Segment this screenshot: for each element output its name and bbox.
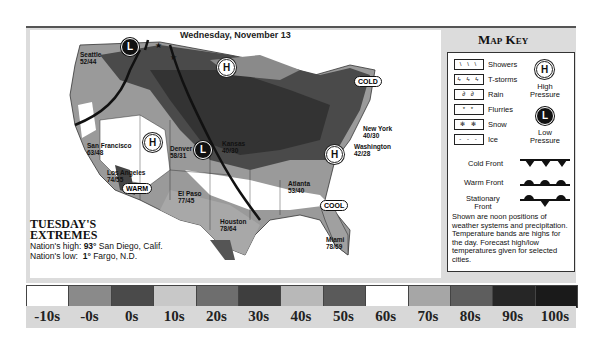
key-rain: ∂ ∂Rain (454, 89, 503, 100)
band-label: 0s (111, 306, 153, 328)
warm-front-icon (520, 173, 570, 187)
cold-front-icon (520, 157, 570, 169)
key-high-label: HighPressure (520, 83, 570, 99)
key-low-label: LowPressure (520, 129, 570, 145)
cold-front-label: Cold Front (468, 160, 503, 168)
high-pressure-icon: H (326, 146, 343, 163)
city-atlanta: Atlanta53/40 (288, 180, 310, 194)
temperature-scale-labels: -10s -0s 0s 10s 20s 30s 40s 50s 60s 70s … (26, 306, 576, 328)
cold-badge: COLD (354, 76, 382, 87)
band-swatch (154, 286, 196, 307)
showers-icon: \ \ \ (454, 59, 484, 70)
key-flurries: * *Flurries (454, 104, 513, 115)
band-label: -10s (26, 306, 68, 328)
band-swatch (493, 286, 535, 307)
key-high-pressure-icon: H (536, 61, 553, 78)
svg-text:★: ★ (155, 41, 162, 50)
low-pressure-icon: L (121, 38, 139, 56)
stationary-front-icon (520, 192, 570, 208)
city-miami: Miami78/69 (326, 236, 344, 250)
band-label: 10s (153, 306, 195, 328)
temperature-scale (26, 285, 578, 308)
city-houston: Houston78/64 (220, 218, 246, 232)
key-low-pressure-icon: L (536, 107, 554, 125)
band-swatch (27, 286, 69, 307)
warm-front-label: Warm Front (464, 179, 503, 187)
city-los-angeles: Los Angeles74/55 (107, 169, 145, 183)
band-label: 40s (280, 306, 322, 328)
band-swatch (409, 286, 451, 307)
band-swatch (536, 286, 577, 307)
forecast-date: Wednesday, November 13 (180, 30, 291, 40)
key-note: Shown are noon positions of weather syst… (452, 213, 572, 264)
tstorm-icon: ϟ ϟ ϟ (454, 74, 484, 85)
map-key-title: Map Key (478, 32, 528, 48)
city-san-francisco: San Francisco63/48 (87, 142, 131, 156)
band-swatch (239, 286, 281, 307)
key-showers: \ \ \Showers (454, 59, 517, 70)
nation-high: Nation's high: 93° San Diego, Calif. (30, 241, 163, 251)
stationary-front-label: StationaryFront (466, 195, 500, 211)
snow-icon: ✻ ✻ (454, 119, 484, 130)
city-new-york: New York40/30 (363, 125, 392, 139)
high-pressure-icon: H (218, 59, 235, 76)
band-label: 50s (322, 306, 364, 328)
low-pressure-icon: L (194, 141, 212, 159)
city-denver: Denver58/31 (170, 145, 192, 159)
key-ice: - - -Ice (454, 134, 498, 145)
band-label: -0s (68, 306, 110, 328)
band-label: 80s (449, 306, 491, 328)
band-swatch (281, 286, 323, 307)
band-swatch (69, 286, 111, 307)
cool-badge: COOL (320, 200, 348, 211)
band-swatch (197, 286, 239, 307)
nation-low: Nation's low: 1° Fargo, N.D. (30, 251, 163, 261)
city-seattle: Seattle52/44 (80, 51, 101, 65)
flurries-icon: * * (454, 104, 484, 115)
high-pressure-icon: H (144, 134, 161, 151)
extremes-title-line2: EXTREMES (30, 230, 163, 241)
map-key-box: \ \ \Showers ϟ ϟ ϟT-storms ∂ ∂Rain * *Fl… (447, 52, 575, 272)
city-el-paso: El Paso77/45 (178, 190, 201, 204)
ice-icon: - - - (454, 134, 484, 145)
band-label: 30s (238, 306, 280, 328)
band-label: 20s (195, 306, 237, 328)
city-kansas: Kansas40/30 (222, 140, 245, 154)
key-snow: ✻ ✻Snow (454, 119, 507, 130)
band-label: 60s (365, 306, 407, 328)
city-washington: Washington42/28 (354, 143, 391, 157)
key-tstorms: ϟ ϟ ϟT-storms (454, 74, 517, 85)
svg-text:★: ★ (170, 53, 177, 62)
rain-icon: ∂ ∂ (454, 89, 484, 100)
warm-badge: WARM (122, 183, 152, 194)
band-label: 100s (534, 306, 576, 328)
band-swatch (324, 286, 366, 307)
band-swatch (451, 286, 493, 307)
band-label: 70s (407, 306, 449, 328)
band-swatch (366, 286, 408, 307)
band-swatch (112, 286, 154, 307)
band-label: 90s (491, 306, 533, 328)
tuesday-extremes: TUESDAY'S EXTREMES Nation's high: 93° Sa… (30, 219, 163, 261)
